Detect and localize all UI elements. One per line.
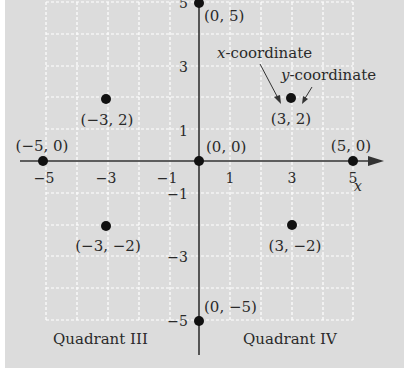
point-3-2 <box>286 93 296 103</box>
point-3-neg2 <box>287 220 297 230</box>
x-axis-label: x <box>354 178 362 194</box>
point-label: (5, 0) <box>331 137 371 155</box>
x-coordinate-arrowhead-icon <box>274 95 281 104</box>
point-label: (−3, 2) <box>81 111 134 129</box>
point-origin <box>194 156 204 166</box>
point-5-0 <box>348 156 358 166</box>
point-label: (3, 2) <box>271 110 311 128</box>
x-coordinate-annotation: x-coordinate <box>217 44 312 62</box>
y-tick: 1 <box>179 123 188 139</box>
x-tick: −5 <box>34 170 55 186</box>
x-tick: −3 <box>96 170 117 186</box>
point-neg3-2 <box>101 94 111 104</box>
point-0-5 <box>194 0 204 8</box>
quadrant-iii-label: Quadrant III <box>53 330 148 348</box>
coordinate-plane: −5 −3 −1 1 3 5 x 5 3 1 −1 −3 −5 (0, 5) (… <box>0 0 409 387</box>
point-label: (0, 0) <box>206 138 246 156</box>
x-tick: 1 <box>226 170 235 186</box>
y-tick: −3 <box>167 249 188 265</box>
coordinate-annotations: x-coordinate y-coordinate <box>217 44 376 104</box>
point-label: (0, −5) <box>204 298 257 316</box>
y-tick: 5 <box>179 0 188 11</box>
point-0-neg5 <box>194 316 204 326</box>
point-label: (−5, 0) <box>16 137 69 155</box>
point-label: (−3, −2) <box>75 237 140 255</box>
x-tick-labels: −5 −3 −1 1 3 5 x <box>34 170 362 194</box>
point-label: (3, −2) <box>269 237 322 255</box>
point-neg5-0 <box>38 156 48 166</box>
x-tick: 3 <box>288 170 297 186</box>
point-neg3-neg2 <box>101 221 111 231</box>
point-label: (0, 5) <box>204 7 244 25</box>
y-tick: −1 <box>167 186 188 202</box>
y-tick: 3 <box>179 59 188 75</box>
axes <box>20 0 384 355</box>
y-tick: −5 <box>167 313 188 329</box>
x-axis-arrow-icon <box>368 156 384 166</box>
y-coordinate-annotation: y-coordinate <box>280 66 376 84</box>
x-tick: −1 <box>157 170 178 186</box>
x-coordinate-arrow-icon <box>260 64 279 100</box>
quadrant-iv-label: Quadrant IV <box>243 330 338 348</box>
